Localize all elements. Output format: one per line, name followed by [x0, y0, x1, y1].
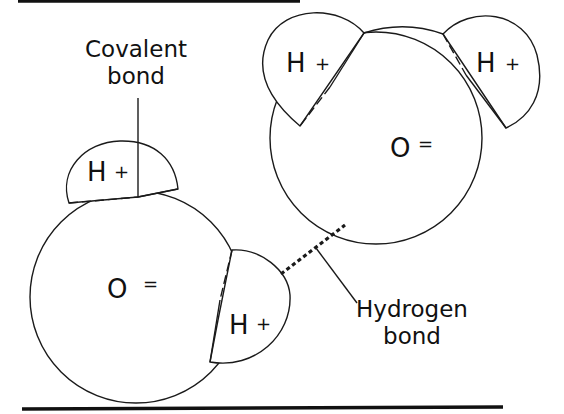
hydrogen-bond-label-line2: bond: [383, 323, 441, 349]
molecule-right: H + H + O =: [263, 13, 540, 244]
hydrogen-charge-left-2: +: [256, 313, 271, 334]
oxygen-label-left: O: [107, 274, 127, 304]
hydrogen-label-left-1: H: [87, 157, 107, 187]
hydrogen-label-right-2: H: [476, 48, 496, 78]
hydrogen-charge-left-1: +: [114, 161, 129, 182]
hydrogen-label-right-1: H: [286, 48, 306, 78]
oxygen-atom-left: [30, 191, 242, 403]
water-hydrogen-bond-diagram: H + H + O = H + H + O = Covalent bond Hy…: [0, 0, 564, 414]
hydrogen-bond-pointer: [316, 248, 357, 303]
covalent-bond-label-line2: bond: [107, 63, 165, 89]
hydrogen-bond-label-line1: Hydrogen: [356, 296, 468, 322]
oxygen-label-right: O: [390, 133, 410, 163]
hydrogen-charge-right-2: +: [505, 53, 520, 74]
molecule-left: H + H + O =: [30, 141, 290, 403]
hydrogen-charge-right-1: +: [315, 53, 330, 74]
bottom-rule: [22, 407, 503, 409]
oxygen-charge-left: =: [143, 273, 158, 294]
hydrogen-label-left-2: H: [229, 310, 249, 340]
oxygen-charge-right: =: [418, 133, 433, 154]
covalent-bond-label-line1: Covalent: [85, 36, 187, 62]
